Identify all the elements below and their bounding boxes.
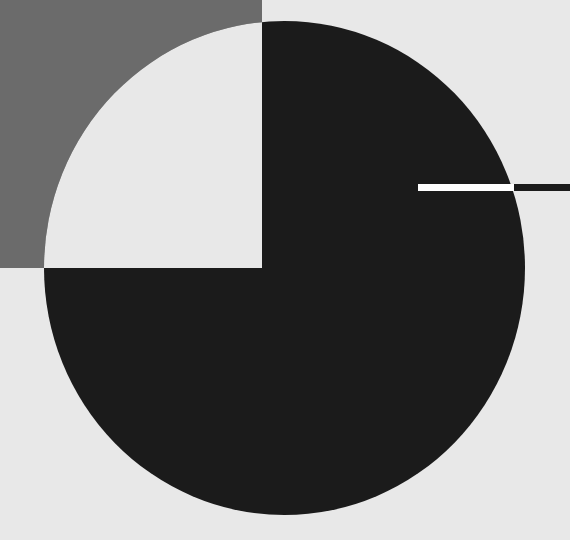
black-bar [514,184,570,191]
artwork-svg [0,0,570,540]
abstract-composition [0,0,570,540]
white-bar [418,184,514,191]
